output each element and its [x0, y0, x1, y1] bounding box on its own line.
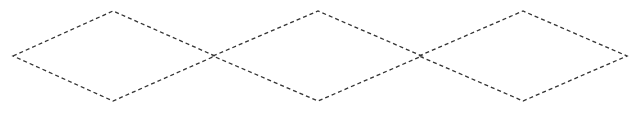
diamond-shape-2 — [213, 11, 422, 101]
diagram-canvas — [0, 0, 637, 115]
diamond-shape-1 — [13, 11, 215, 101]
diamond-shape-3 — [419, 11, 627, 101]
